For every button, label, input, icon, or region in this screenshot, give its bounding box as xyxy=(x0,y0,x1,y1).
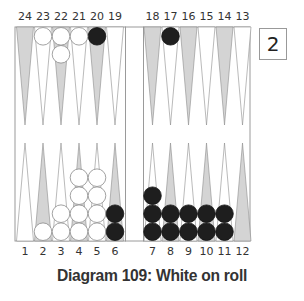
white-checker-point-3 xyxy=(52,223,70,241)
point-label-16: 16 xyxy=(180,10,198,23)
point-label-24: 24 xyxy=(16,10,34,23)
black-checker-point-6 xyxy=(106,205,124,223)
point-label-5: 5 xyxy=(88,245,106,258)
white-checker-point-4 xyxy=(70,169,88,187)
cube-value: 2 xyxy=(267,32,280,56)
point-label-13: 13 xyxy=(234,10,252,23)
point-label-23: 23 xyxy=(34,10,52,23)
black-checker-point-20 xyxy=(88,28,106,46)
point-label-9: 9 xyxy=(180,245,198,258)
black-checker-point-10 xyxy=(198,223,216,241)
point-label-17: 17 xyxy=(162,10,180,23)
point-label-1: 1 xyxy=(16,245,34,258)
white-checker-point-2 xyxy=(34,223,52,241)
white-checker-point-5 xyxy=(88,169,106,187)
white-checker-point-21 xyxy=(70,28,88,46)
black-checker-point-10 xyxy=(198,205,216,223)
black-checker-point-9 xyxy=(180,223,198,241)
doubling-cube: 2 xyxy=(259,28,287,60)
point-label-22: 22 xyxy=(52,10,70,23)
white-checker-point-23 xyxy=(34,28,52,46)
point-label-15: 15 xyxy=(198,10,216,23)
point-label-21: 21 xyxy=(70,10,88,23)
point-label-18: 18 xyxy=(144,10,162,23)
black-checker-point-11 xyxy=(216,205,234,223)
black-checker-point-7 xyxy=(144,187,162,205)
point-label-19: 19 xyxy=(106,10,124,23)
point-label-11: 11 xyxy=(216,245,234,258)
point-label-20: 20 xyxy=(88,10,106,23)
point-label-8: 8 xyxy=(162,245,180,258)
point-label-12: 12 xyxy=(234,245,252,258)
diagram-caption: Diagram 109: White on roll xyxy=(12,266,292,286)
point-label-7: 7 xyxy=(144,245,162,258)
black-checker-point-7 xyxy=(144,205,162,223)
point-label-2: 2 xyxy=(34,245,52,258)
white-checker-point-22 xyxy=(52,46,70,64)
point-label-14: 14 xyxy=(216,10,234,23)
point-label-6: 6 xyxy=(106,245,124,258)
black-checker-point-11 xyxy=(216,223,234,241)
white-checker-point-5 xyxy=(88,205,106,223)
black-checker-point-6 xyxy=(106,223,124,241)
board-bar xyxy=(126,27,144,241)
black-checker-point-7 xyxy=(144,223,162,241)
white-checker-point-3 xyxy=(52,205,70,223)
black-checker-point-17 xyxy=(162,28,180,46)
white-checker-point-4 xyxy=(70,187,88,205)
point-label-4: 4 xyxy=(70,245,88,258)
point-label-3: 3 xyxy=(52,245,70,258)
white-checker-point-4 xyxy=(70,223,88,241)
white-checker-point-4 xyxy=(70,205,88,223)
black-checker-point-9 xyxy=(180,205,198,223)
point-label-10: 10 xyxy=(198,245,216,258)
black-checker-point-8 xyxy=(162,223,180,241)
white-checker-point-5 xyxy=(88,187,106,205)
black-checker-point-8 xyxy=(162,205,180,223)
white-checker-point-5 xyxy=(88,223,106,241)
white-checker-point-22 xyxy=(52,28,70,46)
